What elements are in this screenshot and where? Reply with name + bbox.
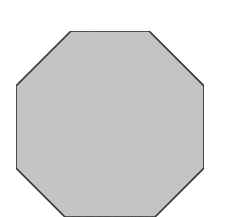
canvas — [0, 0, 228, 217]
octagon-shape — [16, 31, 204, 217]
